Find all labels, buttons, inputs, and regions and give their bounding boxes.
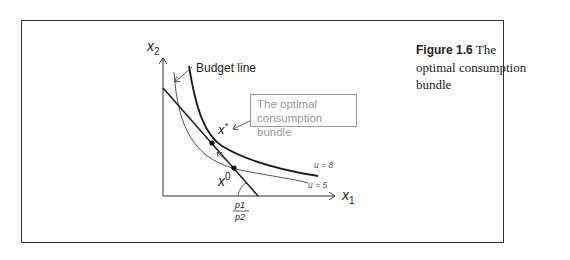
slope-denominator: p2 [235,212,245,222]
slope-angle-arc [238,182,247,196]
initial-point [231,165,236,170]
y-axis-label: x2 [147,38,160,57]
optimal-bundle-callout: The optimal consumption bundle [250,94,357,127]
slope-numerator: p1 [235,200,245,210]
figure-caption: Figure 1.6 The optimal consumption bundl… [416,41,536,93]
budget-label-arrow [175,67,192,82]
figure-number: Figure 1.6 [416,43,473,57]
budget-line-label: Budget line [196,61,256,75]
optimal-point [209,140,214,145]
u8-label: u = 8 [314,160,333,170]
x-axis-label: x1 [342,187,355,206]
u5-label: u = 5 [308,180,327,190]
optimal-point-label: x* [218,121,228,137]
callout-arrow [233,121,250,129]
initial-point-label: x0 [218,171,231,189]
